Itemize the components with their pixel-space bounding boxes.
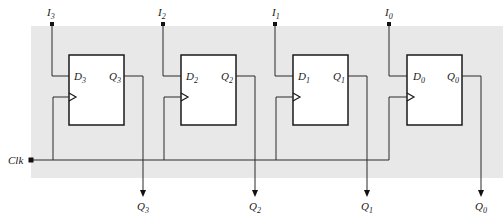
output-arrow-icon [364, 190, 370, 197]
d-flip-flop-box-1 [293, 55, 348, 125]
output-arrow-icon [252, 190, 258, 197]
output-label-2: Q2 [249, 200, 261, 215]
input-label-3: I3 [46, 6, 55, 21]
output-label-3: Q3 [137, 200, 149, 215]
clock-terminal [29, 158, 34, 163]
input-terminal-0 [387, 22, 391, 26]
input-terminal-1 [273, 22, 277, 26]
input-terminal-2 [161, 22, 165, 26]
d-flip-flop-box-3 [69, 55, 124, 125]
d-flip-flop-box-0 [407, 55, 462, 125]
input-label-1: I1 [271, 6, 280, 21]
input-terminal-3 [50, 22, 54, 26]
output-label-1: Q1 [361, 200, 373, 215]
input-label-0: I0 [384, 6, 393, 21]
d-flip-flop-box-2 [181, 55, 236, 125]
clock-label: Clk [8, 154, 24, 166]
register-diagram: Clk I3 D3 Q3 Q3 I2 D2 Q2 Q2 I1 D1 Q1 [0, 0, 504, 223]
output-arrow-icon [140, 190, 146, 197]
output-arrow-icon [478, 190, 484, 197]
output-label-0: Q0 [475, 200, 487, 215]
input-label-2: I2 [157, 6, 166, 21]
